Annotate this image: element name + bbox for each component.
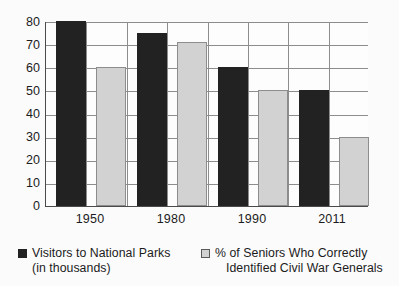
bar-1950-visitors bbox=[56, 21, 86, 206]
legend-swatch-dark-square-icon bbox=[18, 249, 27, 258]
y-axis-tick-label-80: 80 bbox=[6, 16, 40, 28]
gridline-vertical-6 bbox=[288, 22, 289, 206]
bar-2011-visitors bbox=[299, 90, 329, 206]
legend-item-seniors: % of Seniors Who CorrectlyIdentified Civ… bbox=[201, 246, 391, 275]
y-axis-tick-label-20: 20 bbox=[6, 154, 40, 166]
gridline-vertical-2 bbox=[127, 22, 128, 206]
gridline-vertical-4 bbox=[208, 22, 209, 206]
y-axis-tick-label-40: 40 bbox=[6, 108, 40, 120]
legend-item-visitors: Visitors to National Parks(in thousands) bbox=[18, 246, 203, 275]
bar-chart: 80 70 60 50 40 30 20 10 0 bbox=[0, 0, 399, 286]
bar-2011-seniors bbox=[339, 137, 369, 206]
x-axis-tick-label-1990: 1990 bbox=[212, 212, 292, 226]
y-axis-tick-label-60: 60 bbox=[6, 62, 40, 74]
legend-label-seniors: % of Seniors Who CorrectlyIdentified Civ… bbox=[215, 246, 383, 275]
y-axis-tick-label-50: 50 bbox=[6, 85, 40, 97]
bar-1990-visitors bbox=[218, 67, 248, 206]
legend-label-visitors: Visitors to National Parks(in thousands) bbox=[32, 246, 170, 275]
gridline-vertical-1 bbox=[86, 22, 87, 206]
bar-1980-visitors bbox=[137, 33, 167, 206]
legend-label-visitors-line2: (in thousands) bbox=[32, 261, 170, 276]
y-axis-tick-label-30: 30 bbox=[6, 131, 40, 143]
bar-1980-seniors bbox=[177, 42, 207, 206]
plot-area bbox=[45, 22, 368, 207]
y-axis-tick-label-70: 70 bbox=[6, 39, 40, 51]
x-axis-tick-label-1950: 1950 bbox=[50, 212, 130, 226]
legend-label-seniors-line2: Identified Civil War Generals bbox=[215, 261, 383, 276]
y-axis-tick-label-10: 10 bbox=[6, 177, 40, 189]
y-axis-tick-label-0: 0 bbox=[6, 200, 40, 212]
bar-1990-seniors bbox=[258, 90, 288, 206]
gridline-vertical-7 bbox=[329, 22, 330, 206]
legend-label-visitors-line1: Visitors to National Parks bbox=[32, 246, 170, 260]
legend-swatch-light-square-icon bbox=[201, 249, 210, 258]
legend-label-seniors-line1: % of Seniors Who Correctly bbox=[215, 246, 367, 260]
gridline-vertical-3 bbox=[167, 22, 168, 206]
gridline-vertical-5 bbox=[248, 22, 249, 206]
x-axis-tick-label-2011: 2011 bbox=[292, 212, 372, 226]
bar-1950-seniors bbox=[96, 67, 126, 206]
x-axis-tick-label-1980: 1980 bbox=[131, 212, 211, 226]
chart-legend: Visitors to National Parks(in thousands)… bbox=[18, 246, 386, 284]
